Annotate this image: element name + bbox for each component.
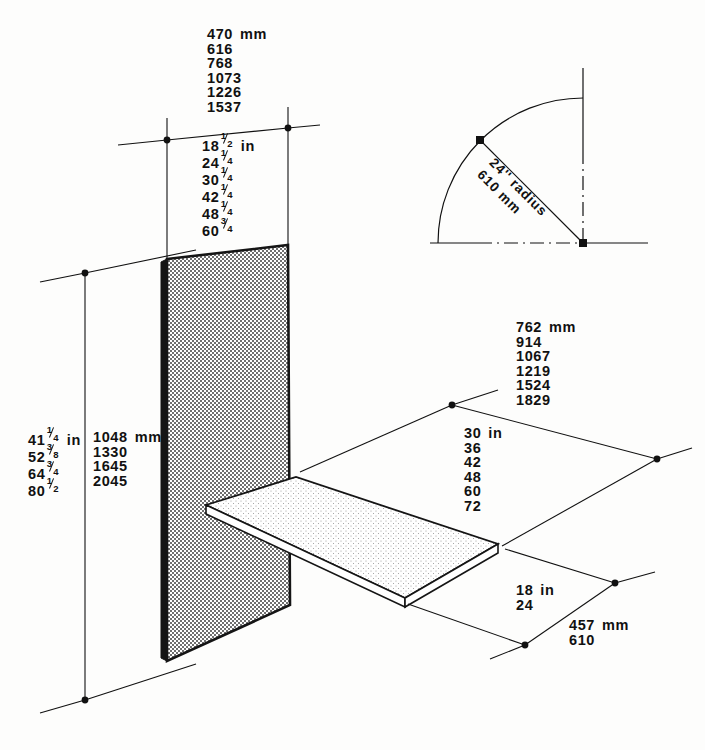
height-dimension-dot-bottom	[82, 697, 89, 704]
shelf-length-in-value-0: 30	[464, 425, 481, 441]
shelf-length-mm-row-4: 1524	[516, 378, 576, 393]
shelf-length-mm-row-2: 1067	[516, 349, 576, 364]
shelf-depth-mm-row-0: 457mm	[569, 618, 629, 633]
shelf-depth-mm-row-1: 610	[569, 633, 629, 648]
shelf-length-mm-label-group: 762mm 914 1067 1219 1524 1829	[516, 320, 576, 407]
width-dimension-dot-right	[285, 125, 292, 132]
panel-height-in-row-1: 5238	[28, 447, 81, 464]
panel-width-in-whole-2: 30	[202, 172, 219, 188]
shelf-depth-mm-label-group: 457mm 610	[569, 618, 629, 647]
shelf-length-in-row-2: 42	[464, 455, 502, 470]
panel-width-in-row-5: 6034	[202, 221, 255, 238]
width-leader-tail-left	[118, 140, 167, 145]
panel-width-in-row-3: 4214	[202, 187, 255, 204]
shelf-length-mm-row-5: 1829	[516, 393, 576, 408]
panel-height-mm-row-3: 2045	[93, 474, 162, 489]
panel-width-in-whole-1: 24	[202, 155, 219, 171]
width-dimension-dot-left	[164, 137, 171, 144]
shelf-length-in-row-0: 30in	[464, 426, 502, 441]
vertical-wall-panel	[161, 245, 290, 661]
radius-detail-diagram	[430, 68, 648, 247]
panel-height-in-whole-1: 52	[28, 449, 45, 465]
shelf-length-leader-tail-right	[657, 448, 692, 459]
shelf-depth-leader-to-front	[408, 604, 525, 645]
radius-center-point-marker	[579, 239, 587, 247]
panel-height-mm-label-group: 1048mm 1330 1645 2045	[93, 430, 162, 488]
panel-width-mm-unit: mm	[233, 26, 267, 42]
panel-width-mm-row-3: 1073	[207, 71, 267, 86]
shelf-depth-leader-to-tip	[505, 549, 615, 583]
shelf-length-leader-tail-top	[452, 390, 498, 405]
shelf-depth-in-unit: in	[533, 582, 554, 598]
panel-width-mm-row-5: 1537	[207, 100, 267, 115]
shelf-length-dot-right	[654, 456, 661, 463]
panel-height-in-row-0: 4114in	[28, 430, 81, 447]
width-leader-tail-right	[288, 125, 320, 128]
shelf-length-in-row-1: 36	[464, 441, 502, 456]
shelf-depth-in-row-0: 18in	[516, 583, 554, 598]
height-dimension-dot-top	[82, 270, 89, 277]
panel-height-in-fraction-3: 12	[47, 481, 60, 496]
panel-width-in-whole-0: 18	[202, 138, 219, 154]
shelf-length-dot-left	[449, 402, 456, 409]
shelf-depth-leader-tail-lower	[490, 645, 525, 659]
shelf-length-mm-row-3: 1219	[516, 364, 576, 379]
panel-width-mm-value-0: 470	[207, 26, 233, 42]
height-leader-top-tail	[40, 273, 85, 282]
panel-height-in-whole-0: 41	[28, 432, 45, 448]
panel-width-in-row-2: 3014	[202, 170, 255, 187]
panel-height-in-unit: in	[60, 432, 81, 448]
shelf-length-in-row-4: 60	[464, 484, 502, 499]
panel-width-mm-row-4: 1226	[207, 85, 267, 100]
shelf-length-in-row-3: 48	[464, 470, 502, 485]
panel-height-mm-row-0: 1048mm	[93, 430, 162, 445]
height-leader-bottom-tail	[40, 700, 85, 713]
panel-height-in-row-3: 8012	[28, 481, 81, 498]
panel-width-in-whole-3: 42	[202, 189, 219, 205]
height-leader-bottom	[85, 664, 196, 700]
shelf-depth-in-row-1: 24	[516, 598, 554, 613]
panel-width-mm-row-0: 470mm	[207, 27, 267, 42]
panel-width-in-row-0: 1812in	[202, 136, 255, 153]
panel-height-in-whole-2: 64	[28, 466, 45, 482]
panel-height-mm-row-1: 1330	[93, 445, 162, 460]
panel-height-in-row-2: 6434	[28, 464, 81, 481]
panel-face	[167, 245, 290, 661]
panel-height-mm-row-2: 1645	[93, 459, 162, 474]
shelf-length-leader-to-tip	[502, 459, 657, 546]
technical-drawing-page: 470mm 616 768 1073 1226 1537 1812in 2414…	[0, 0, 705, 750]
shelf-length-mm-unit: mm	[542, 319, 576, 335]
shelf-depth-in-label-group: 18in 24	[516, 583, 554, 612]
panel-width-mm-row-2: 768	[207, 56, 267, 71]
panel-height-in-label-group: 4114in 5238 6434 8012	[28, 430, 81, 498]
shelf-length-leader-to-panel	[300, 405, 452, 472]
shelf-depth-dot-upper	[612, 580, 619, 587]
shelf-length-mm-value-0: 762	[516, 319, 542, 335]
panel-width-in-whole-4: 48	[202, 206, 219, 222]
shelf-length-in-row-5: 72	[464, 499, 502, 514]
panel-width-in-label-group: 1812in 2414 3014 4214 4814 6034	[202, 136, 255, 238]
shelf-length-mm-row-0: 762mm	[516, 320, 576, 335]
shelf-length-in-label-group: 30in 36 42 48 60 72	[464, 426, 502, 513]
radius-arc-point-marker	[476, 136, 484, 144]
shelf-depth-mm-unit: mm	[595, 617, 629, 633]
shelf-depth-mm-value-0: 457	[569, 617, 595, 633]
panel-height-in-whole-3: 80	[28, 483, 45, 499]
shelf-depth-leader-tail-upper	[615, 572, 655, 583]
panel-width-in-whole-5: 60	[202, 223, 219, 239]
shelf-length-in-unit: in	[481, 425, 502, 441]
panel-width-mm-label-group: 470mm 616 768 1073 1226 1537	[207, 27, 267, 114]
panel-width-in-unit: in	[234, 138, 255, 154]
panel-width-in-fraction-5: 34	[221, 221, 234, 236]
panel-height-mm-unit: mm	[128, 429, 162, 445]
shelf-depth-in-value-0: 18	[516, 582, 533, 598]
panel-width-mm-row-1: 616	[207, 42, 267, 57]
shelf-depth-dot-lower	[522, 642, 529, 649]
panel-width-in-row-1: 2414	[202, 153, 255, 170]
panel-width-in-row-4: 4814	[202, 204, 255, 221]
panel-height-mm-value-0: 1048	[93, 429, 128, 445]
shelf-length-mm-row-1: 914	[516, 335, 576, 350]
